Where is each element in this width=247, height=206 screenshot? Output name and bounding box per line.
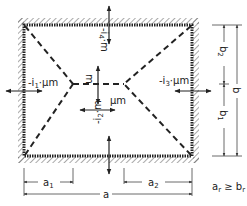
- dim-a1: a1: [43, 177, 54, 190]
- left-moment-label: -i1·μm: [28, 77, 58, 90]
- dim-b1: b1: [216, 110, 229, 121]
- dim-a2: a2: [148, 177, 159, 190]
- bottom-moment-label: -i2·m: [92, 100, 105, 124]
- yield-line-diagram: -i1·μm -i3·μm -i4·m -i2·m m μm a1 a2 a b: [0, 0, 247, 206]
- center-horizontal-label: μm: [110, 95, 126, 106]
- condition-label: ar ≥ br: [212, 181, 245, 194]
- dim-b2: b2: [216, 46, 229, 57]
- center-vertical-label: m: [84, 74, 95, 84]
- right-moment-label: -i3·μm: [159, 75, 189, 88]
- dim-a: a: [103, 189, 109, 200]
- dim-b: b: [231, 87, 242, 93]
- top-moment-label: -i4·m: [97, 28, 110, 52]
